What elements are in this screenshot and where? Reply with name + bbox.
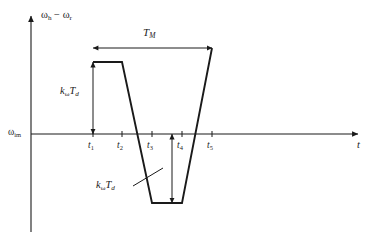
tick-label-t2: t2 <box>117 141 123 151</box>
y-axis-label: ωh − ωr <box>41 10 72 21</box>
tick-label-t5: t5 <box>207 141 213 151</box>
lower-measure-label: kωTd <box>96 180 115 191</box>
upper-measure-label: kωTd <box>60 86 79 97</box>
tm-span-label: TM <box>143 27 155 38</box>
tick-label-t3: t3 <box>147 141 153 151</box>
baseline-label: ωim <box>8 128 21 138</box>
waveform-plot <box>0 0 378 241</box>
tick-label-t1: t1 <box>88 141 94 151</box>
x-axis-label: t <box>357 140 360 151</box>
waveform-figure: ωh − ωr ωim t TM kωTd kωTd t1 t2 t3 t4 t… <box>0 0 378 241</box>
tick-label-t4: t4 <box>177 141 183 151</box>
